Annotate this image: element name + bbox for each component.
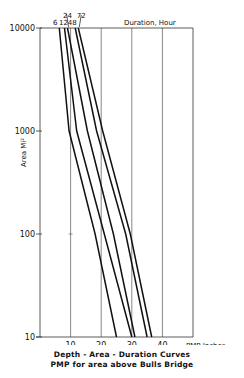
series-line-72h	[78, 28, 151, 337]
series-label-48h: 48	[68, 19, 77, 27]
y-axis-label: Area Mi²	[20, 138, 28, 167]
legend-title: Duration, Hour	[124, 19, 176, 27]
y-tick-label: 1000	[15, 127, 35, 136]
x-tick-label: 30	[127, 341, 137, 345]
series-line-6h	[59, 28, 116, 337]
x-tick-label: 10	[66, 341, 76, 345]
x-tick-label: 20	[96, 341, 106, 345]
series-group	[59, 28, 151, 337]
x-tick-label: 40	[157, 341, 167, 345]
chart-title: Depth - Area - Duration Curves	[0, 350, 244, 360]
series-line-12h	[65, 28, 132, 337]
plot-frame	[36, 28, 193, 337]
series-label-12h: 12	[59, 19, 68, 27]
y-tick-label: 10000	[10, 24, 35, 33]
chart-subtitle: PMP for area above Bulls Bridge	[0, 360, 244, 370]
series-labels: 612244872	[53, 12, 86, 27]
chart: 10100100010000 10203040 612244872 Durati…	[0, 0, 244, 345]
x-axis-label: PMP Inches	[186, 342, 226, 345]
y-tick-label: 100	[20, 230, 35, 239]
x-axis: 10203040	[66, 341, 168, 345]
y-tick-label: 10	[25, 333, 35, 342]
series-line-48h	[75, 28, 147, 337]
series-label-6h: 6	[53, 19, 58, 27]
